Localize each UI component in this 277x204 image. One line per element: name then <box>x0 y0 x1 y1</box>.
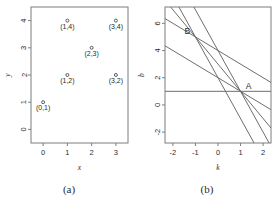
scatter-plot-a: 012301234xy(0,1)(1,2)(1,4)(2,3)(3,2)(3,4… <box>0 0 138 204</box>
x-tick-label: -2 <box>170 148 177 157</box>
figure-container: 012301234xy(0,1)(1,2)(1,4)(2,3)(3,2)(3,4… <box>0 0 277 204</box>
y-axis-title: b <box>137 73 146 77</box>
y-tick-label: 4 <box>20 19 29 23</box>
plot-frame-b <box>165 7 271 143</box>
y-tick-label: 4 <box>154 48 163 52</box>
data-point-label: (3,2) <box>109 77 123 85</box>
dual-line <box>165 0 271 128</box>
x-tick-label: 3 <box>114 148 118 157</box>
panel-b-caption: (b) <box>138 183 276 195</box>
x-tick-label: 0 <box>216 148 220 157</box>
data-point-label: (0,1) <box>36 104 50 112</box>
panel-a: 012301234xy(0,1)(1,2)(1,4)(2,3)(3,2)(3,4… <box>0 0 138 204</box>
y-tick-label: 1 <box>20 100 29 104</box>
y-tick-label: 0 <box>154 103 163 107</box>
data-point-label: (1,4) <box>60 23 74 31</box>
y-tick-label: 6 <box>154 21 163 25</box>
x-tick-label: -1 <box>192 148 199 157</box>
y-tick-label: -2 <box>154 129 163 136</box>
x-tick-label: 2 <box>261 148 265 157</box>
intersection-label-b: B <box>185 26 191 36</box>
panel-b: -2-1012-20246kbAB (b) <box>138 0 276 204</box>
y-tick-label: 2 <box>154 76 163 80</box>
dual-line-plot-b: -2-1012-20246kbAB <box>138 0 276 204</box>
x-tick-label: 1 <box>65 148 69 157</box>
panel-a-caption: (a) <box>0 183 138 195</box>
y-tick-label: 0 <box>20 127 29 131</box>
intersection-label-a: A <box>246 81 252 91</box>
x-tick-label: 1 <box>238 148 242 157</box>
y-tick-label: 3 <box>20 46 29 50</box>
data-point-label: (1,2) <box>60 77 74 85</box>
x-axis-title: k <box>216 163 220 172</box>
x-tick-label: 0 <box>41 148 45 157</box>
x-tick-label: 2 <box>90 148 94 157</box>
x-axis-title: x <box>77 163 82 172</box>
y-axis-title: y <box>3 73 12 78</box>
data-point-label: (3,4) <box>109 23 123 31</box>
data-point-label: (2,3) <box>84 50 98 58</box>
y-tick-label: 2 <box>20 73 29 77</box>
